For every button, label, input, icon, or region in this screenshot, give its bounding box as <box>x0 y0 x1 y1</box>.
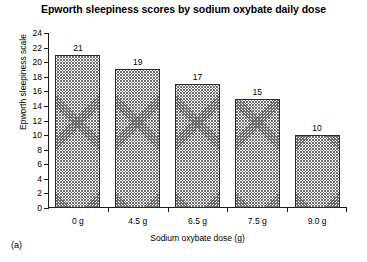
bar-value-label: 21 <box>73 43 82 52</box>
y-axis-tick <box>44 48 49 49</box>
y-axis-tick <box>44 135 49 136</box>
x-axis-tick <box>346 208 347 212</box>
y-axis-tick-label: 10 <box>33 131 42 140</box>
y-axis-tick-label: 4 <box>37 175 42 184</box>
y-axis-tick-label: 6 <box>37 160 42 169</box>
x-axis-tick-label: 4.5 g <box>128 217 147 226</box>
bar-value-label: 17 <box>193 73 202 82</box>
bar <box>175 84 220 208</box>
bar <box>235 99 280 208</box>
epworth-sleepiness-bar-chart-figure: Epworth sleepiness scores by sodium oxyb… <box>0 0 367 262</box>
y-axis-tick <box>44 62 49 63</box>
x-axis-tick <box>227 208 228 212</box>
x-axis-tick <box>168 208 169 212</box>
bar <box>115 69 160 208</box>
y-axis-tick <box>44 150 49 151</box>
bar <box>295 135 340 208</box>
y-axis-tick <box>44 91 49 92</box>
x-axis-tick-label: 9.0 g <box>308 217 327 226</box>
bar-value-label: 19 <box>133 58 142 67</box>
x-axis-tick-label: 7.5 g <box>248 217 267 226</box>
y-axis-tick-label: 24 <box>33 29 42 38</box>
x-axis-tick-label: 6.5 g <box>188 217 207 226</box>
y-axis-tick-label: 22 <box>33 43 42 52</box>
x-axis-tick-label: 0 g <box>72 217 84 226</box>
y-axis-tick-label: 2 <box>37 189 42 198</box>
subfigure-label: (a) <box>11 240 22 250</box>
y-axis-tick-label: 14 <box>33 102 42 111</box>
y-axis-tick-label: 18 <box>33 73 42 82</box>
y-axis-tick <box>44 179 49 180</box>
y-axis-tick-label: 8 <box>37 145 42 154</box>
y-axis-tick <box>44 208 49 209</box>
y-axis-tick-label: 20 <box>33 58 42 67</box>
y-axis-tick <box>44 121 49 122</box>
bar-value-label: 10 <box>312 124 321 133</box>
bar <box>55 55 100 208</box>
y-axis-tick <box>44 164 49 165</box>
plot-area: 024681012141618202224 2119171510 0 g4.5 … <box>48 33 347 208</box>
chart-title: Epworth sleepiness scores by sodium oxyb… <box>0 3 367 15</box>
y-axis-title: Epworth sleepiness scale <box>18 7 28 157</box>
y-axis-tick-label: 12 <box>33 116 42 125</box>
y-axis-tick <box>44 33 49 34</box>
y-axis-tick <box>44 77 49 78</box>
y-axis-tick-label: 16 <box>33 87 42 96</box>
y-axis-tick-label: 0 <box>37 204 42 213</box>
y-axis-tick <box>44 193 49 194</box>
x-axis-tick <box>287 208 288 212</box>
x-axis-title: Sodium oxybate dose (g) <box>48 233 347 243</box>
x-axis-tick <box>108 208 109 212</box>
bar-value-label: 15 <box>253 87 262 96</box>
y-axis-tick <box>44 106 49 107</box>
